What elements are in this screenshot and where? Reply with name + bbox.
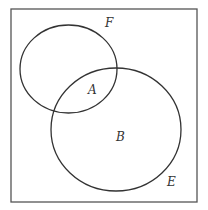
universe-box [11, 9, 197, 202]
label-a: A [87, 83, 97, 97]
venn-diagram: F A B E [0, 0, 208, 210]
label-b: B [115, 130, 125, 144]
label-e: E [166, 175, 176, 189]
label-f: F [104, 16, 114, 30]
